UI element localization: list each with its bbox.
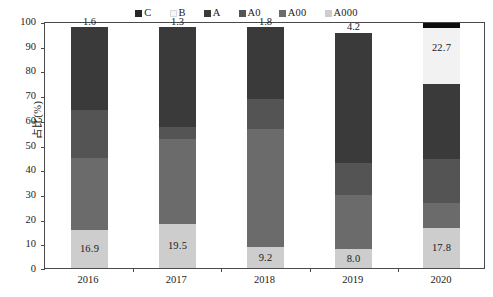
bar-segment-a[interactable]	[423, 84, 460, 159]
y-tick-label: 100	[20, 17, 36, 27]
legend-label: A	[213, 8, 221, 18]
y-tick-label: 40	[26, 165, 37, 175]
bar-segment-a0[interactable]	[247, 99, 284, 129]
bar-segment-label: 16.9	[80, 244, 99, 254]
bar-2020[interactable]: 17.8 22.7	[423, 21, 460, 268]
bar-segment-a[interactable]	[159, 27, 196, 127]
bar-segment-a00[interactable]	[423, 203, 460, 228]
y-tick-mark	[41, 171, 45, 172]
bar-segment-b[interactable]: 22.7	[423, 28, 460, 84]
bar-segment-label: 19.5	[168, 241, 187, 251]
y-tick-label: 70	[26, 91, 37, 101]
bar-segment-a000[interactable]: 19.5	[159, 224, 196, 268]
y-tick-mark	[41, 221, 45, 222]
x-tick-label-2016: 2016	[78, 274, 99, 285]
bar-segment-a0[interactable]	[159, 127, 196, 140]
bar-2019[interactable]: 8.0 4.2	[335, 21, 372, 268]
square-marker-icon	[204, 10, 211, 17]
plot-area: 16.9 1.6 19.5 1.3 9.2	[44, 22, 485, 269]
bar-2018[interactable]: 9.2 1.8	[247, 21, 284, 268]
y-tick-mark	[41, 196, 45, 197]
bar-2017[interactable]: 19.5 1.3	[159, 21, 196, 268]
bar-top-value-label: 1.6	[71, 17, 108, 27]
legend-item-a000[interactable]: A000	[325, 8, 358, 18]
bar-top-value-label: 1.3	[159, 17, 196, 27]
bar-2016[interactable]: 16.9 1.6	[71, 21, 108, 268]
legend-item-c[interactable]: C	[135, 8, 151, 18]
bar-segment-label: 9.2	[259, 253, 273, 263]
y-tick-mark	[41, 245, 45, 246]
y-tick-mark	[41, 72, 45, 73]
bar-segment-a00[interactable]	[71, 158, 108, 230]
y-tick-label: 10	[26, 239, 37, 249]
y-tick-mark	[41, 122, 45, 123]
y-tick-mark	[41, 147, 45, 148]
bar-segment-a[interactable]	[335, 33, 372, 163]
y-tick-label: 80	[26, 66, 37, 76]
legend-label: C	[144, 8, 151, 18]
bar-segment-label: 8.0	[347, 254, 361, 264]
x-tick-label-2019: 2019	[342, 274, 363, 285]
bar-top-value-label: 1.8	[247, 17, 284, 27]
bar-segment-a000[interactable]: 16.9	[71, 230, 108, 268]
bar-segment-a0[interactable]	[423, 159, 460, 203]
y-tick-mark	[41, 97, 45, 98]
legend-item-a[interactable]: A	[204, 8, 221, 18]
bar-segment-a000[interactable]: 17.8	[423, 228, 460, 268]
square-marker-icon	[325, 10, 332, 17]
bar-segment-a00[interactable]	[159, 139, 196, 224]
x-axis-tick-labels: 2016 2017 2018 2019 2020	[44, 272, 485, 292]
y-tick-label: 90	[26, 42, 37, 52]
square-marker-icon	[239, 10, 246, 17]
y-tick-mark	[41, 23, 45, 24]
square-marker-icon	[279, 10, 286, 17]
y-tick-mark	[41, 48, 45, 49]
bar-segment-a00[interactable]	[247, 129, 284, 247]
bar-top-value-label: 4.2	[335, 22, 372, 32]
bar-segment-a00[interactable]	[335, 195, 372, 249]
legend-label: A00	[288, 8, 307, 18]
bar-segment-a[interactable]	[71, 27, 108, 110]
bar-segment-label: 17.8	[432, 243, 451, 253]
y-tick-label: 60	[26, 116, 37, 126]
y-axis-tick-labels: 100 90 80 70 60 50 40 30 20 10 0	[0, 22, 42, 269]
bar-segment-a000[interactable]: 9.2	[247, 247, 284, 268]
y-tick-mark	[41, 269, 45, 270]
y-tick-label: 30	[26, 190, 37, 200]
square-marker-icon	[135, 10, 142, 17]
y-tick-label: 0	[31, 264, 36, 274]
x-tick-label-2020: 2020	[430, 274, 451, 285]
x-tick-label-2018: 2018	[254, 274, 275, 285]
chart-figure: C B A A0 A00 A000 占比(%) 100 90 80 70 60	[0, 0, 493, 297]
legend-label: A000	[334, 8, 358, 18]
x-tick-label-2017: 2017	[166, 274, 187, 285]
bar-segment-label: 22.7	[432, 43, 451, 53]
y-tick-label: 20	[26, 215, 37, 225]
bar-segment-a0[interactable]	[71, 110, 108, 158]
bar-segment-a0[interactable]	[335, 163, 372, 195]
y-tick-label: 50	[26, 141, 37, 151]
bar-segment-a[interactable]	[247, 27, 284, 99]
bar-segment-c[interactable]	[423, 23, 460, 28]
bar-segment-a000[interactable]: 8.0	[335, 249, 372, 268]
